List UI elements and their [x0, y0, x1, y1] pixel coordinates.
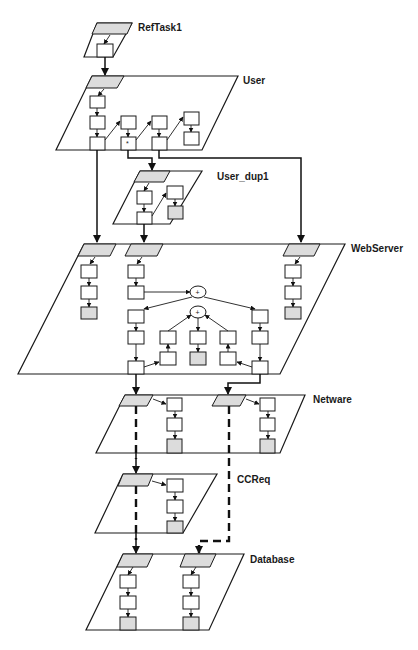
lqn-diagram: RefTask1 * User: [0, 0, 418, 650]
activity: [152, 137, 167, 150]
activity: [220, 331, 236, 344]
activity: [160, 331, 176, 344]
task-label: RefTask1: [138, 22, 182, 33]
activity: [252, 310, 268, 323]
entry: [92, 23, 132, 34]
activity-reply: [167, 439, 182, 453]
call-arrow: [128, 150, 152, 170]
activity: [167, 479, 183, 492]
activity: [285, 265, 301, 278]
activity: [220, 352, 236, 365]
join-symbol: +: [196, 289, 200, 296]
task-label: User_dup1: [217, 171, 269, 182]
activity: [167, 500, 183, 513]
activity: [120, 596, 136, 609]
entry: [283, 244, 320, 256]
activity: [167, 418, 182, 431]
activity: [260, 398, 275, 411]
activity: [90, 96, 105, 108]
task-label: User: [243, 75, 265, 86]
entry: [118, 474, 153, 486]
activity: [121, 116, 136, 129]
activity: [128, 310, 144, 323]
activity: [81, 286, 97, 299]
activity: [90, 116, 105, 129]
entry: [180, 554, 216, 567]
activity: [160, 352, 176, 365]
activity: [152, 116, 167, 129]
activity: [167, 186, 183, 199]
activity-reply: [81, 307, 97, 319]
activity: [128, 331, 144, 344]
entry: [125, 244, 163, 256]
activity-reply: [183, 617, 199, 630]
activity: [183, 575, 199, 588]
join-symbol: +: [196, 309, 200, 316]
activity: [90, 137, 105, 150]
task-label: Database: [250, 554, 295, 565]
activity: [128, 265, 144, 278]
activity: [128, 286, 144, 299]
activity: [128, 361, 144, 374]
activity: [285, 286, 301, 299]
activity-reply: [260, 439, 275, 453]
activity: [184, 132, 199, 145]
activity-reply: [167, 521, 183, 533]
task-reftask1: RefTask1: [84, 22, 182, 57]
entry: [78, 244, 116, 256]
call-arrow: [228, 374, 260, 394]
task-netware: Netware: [96, 394, 352, 453]
task-user-dup1: User_dup1: [113, 171, 269, 224]
activity: [137, 212, 152, 224]
activity: [252, 361, 268, 374]
task-label: Netware: [313, 394, 352, 405]
task-webserver: + +: [18, 243, 403, 374]
activity: [183, 596, 199, 609]
task-label: WebServer: [351, 243, 403, 254]
entry: [117, 554, 153, 567]
activity-reply: [120, 617, 136, 630]
activity-reply: [190, 352, 206, 365]
entry: [86, 76, 124, 88]
activity: [190, 331, 206, 344]
task-user: * User: [56, 75, 265, 150]
fork-marker: *: [126, 140, 129, 147]
activity-reply: [285, 307, 301, 319]
activity-reply: [168, 206, 183, 219]
activity: [137, 191, 152, 204]
activity: [81, 265, 97, 278]
entry: [119, 395, 153, 406]
task-ccreq: CCReq: [95, 474, 270, 533]
task-database: Database: [86, 554, 295, 630]
activity: [260, 418, 275, 431]
entry: [212, 395, 246, 406]
activity: [167, 398, 182, 411]
task-label: CCReq: [237, 474, 270, 485]
entry: [134, 171, 170, 182]
activity: [184, 112, 199, 125]
activity: [120, 575, 136, 588]
activity: [252, 331, 268, 344]
activity: [97, 44, 113, 57]
